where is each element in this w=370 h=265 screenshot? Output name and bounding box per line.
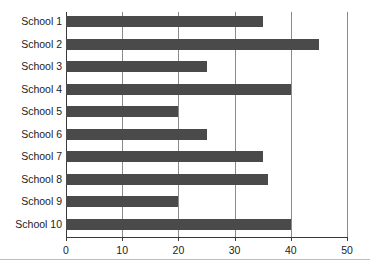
y-label-9: School 9 — [2, 196, 62, 207]
x-tick-label-10: 10 — [116, 244, 128, 256]
x-tick-10 — [122, 237, 123, 241]
bar-row — [66, 147, 347, 169]
bar-row — [66, 215, 347, 237]
plot-area — [66, 12, 347, 237]
bar-3[interactable] — [66, 61, 207, 72]
y-label-2: School 2 — [2, 39, 62, 50]
gridline-50 — [347, 12, 348, 237]
y-label-8: School 8 — [2, 174, 62, 185]
x-tick-label-40: 40 — [285, 244, 297, 256]
bar-row — [66, 57, 347, 79]
bar-row — [66, 80, 347, 102]
bar-6[interactable] — [66, 129, 207, 140]
y-label-1: School 1 — [2, 16, 62, 27]
bar-9[interactable] — [66, 196, 178, 207]
bar-row — [66, 102, 347, 124]
x-tick-20 — [178, 237, 179, 241]
bar-10[interactable] — [66, 219, 291, 230]
bottom-divider — [0, 259, 370, 260]
x-tick-40 — [291, 237, 292, 241]
bar-chart-figure: School 1School 2School 3School 4School 5… — [0, 0, 370, 265]
x-axis-ticks — [66, 237, 347, 242]
x-tick-50 — [347, 237, 348, 241]
x-tick-label-20: 20 — [173, 244, 185, 256]
bar-5[interactable] — [66, 106, 178, 117]
y-label-6: School 6 — [2, 129, 62, 140]
bar-1[interactable] — [66, 16, 263, 27]
y-label-3: School 3 — [2, 61, 62, 72]
x-tick-0 — [66, 237, 67, 241]
bar-row — [66, 170, 347, 192]
bar-row — [66, 192, 347, 214]
bar-7[interactable] — [66, 151, 263, 162]
x-tick-label-0: 0 — [63, 244, 69, 256]
y-label-5: School 5 — [2, 106, 62, 117]
bar-row — [66, 35, 347, 57]
y-label-10: School 10 — [2, 219, 62, 230]
y-label-7: School 7 — [2, 151, 62, 162]
x-tick-30 — [235, 237, 236, 241]
bar-4[interactable] — [66, 84, 291, 95]
y-label-4: School 4 — [2, 84, 62, 95]
bar-8[interactable] — [66, 174, 268, 185]
x-tick-label-30: 30 — [229, 244, 241, 256]
bar-row — [66, 125, 347, 147]
x-tick-label-50: 50 — [341, 244, 353, 256]
y-axis-category-labels: School 1School 2School 3School 4School 5… — [0, 12, 62, 237]
bar-row — [66, 12, 347, 34]
x-axis-tick-labels: 01020304050 — [66, 244, 347, 258]
bar-2[interactable] — [66, 39, 319, 50]
